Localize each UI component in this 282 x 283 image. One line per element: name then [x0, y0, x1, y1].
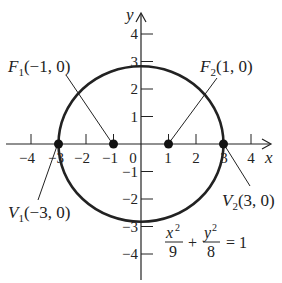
ellipse-equation: x 2 9 + y 2 8 = 1 — [165, 222, 247, 260]
svg-text:y: y — [202, 224, 212, 242]
v2-label: V2(3, 0) — [222, 191, 275, 212]
f2-leader — [169, 78, 217, 143]
svg-text:−2: −2 — [74, 150, 90, 166]
y-axis-label: y — [124, 5, 134, 24]
svg-text:= 1: = 1 — [226, 234, 247, 251]
f1-label: F1(−1, 0) — [7, 57, 70, 78]
svg-text:9: 9 — [169, 243, 177, 260]
svg-text:x: x — [165, 224, 173, 241]
svg-text:8: 8 — [207, 243, 215, 260]
vertex-v2-dot — [219, 140, 228, 149]
focus-f1-dot — [109, 140, 118, 149]
v2-leader — [225, 146, 250, 186]
svg-text:2: 2 — [192, 150, 200, 166]
f2-label: F2(1, 0) — [199, 57, 253, 78]
svg-text:−2: −2 — [122, 191, 138, 207]
svg-text:−4: −4 — [122, 246, 138, 262]
vertex-v1-dot — [54, 140, 63, 149]
svg-text:2: 2 — [175, 222, 180, 233]
svg-text:4: 4 — [131, 26, 139, 42]
svg-text:1: 1 — [164, 150, 172, 166]
svg-text:−4: −4 — [19, 150, 35, 166]
diagram-canvas: −4 −3 −2 −1 0 1 2 3 4 4 3 2 1 −1 −2 −3 −… — [0, 0, 282, 283]
svg-text:−1: −1 — [102, 150, 118, 166]
focus-f2-dot — [164, 140, 173, 149]
svg-text:2: 2 — [212, 222, 217, 233]
v1-label: V1(−3, 0) — [8, 203, 70, 224]
svg-text:1: 1 — [131, 109, 139, 125]
svg-text:4: 4 — [247, 150, 255, 166]
svg-text:−1: −1 — [122, 164, 138, 180]
x-axis-label: x — [264, 148, 273, 167]
svg-text:2: 2 — [131, 81, 139, 97]
svg-text:+: + — [188, 234, 197, 251]
ellipse-diagram: −4 −3 −2 −1 0 1 2 3 4 4 3 2 1 −1 −2 −3 −… — [0, 0, 282, 283]
